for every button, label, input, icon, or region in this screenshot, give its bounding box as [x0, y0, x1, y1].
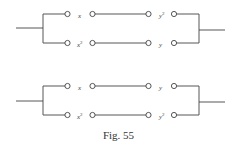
switch-label: y2	[159, 111, 165, 121]
switch-terminal	[171, 83, 176, 88]
figure-caption: Fig. 55	[0, 129, 237, 141]
switch-terminal	[171, 11, 176, 16]
switch-terminal	[146, 11, 151, 16]
switch-terminal	[65, 112, 70, 117]
switch-label: x	[78, 82, 81, 92]
switch-terminal	[146, 112, 151, 117]
switch-label: x2	[77, 39, 83, 49]
switch-terminal	[90, 83, 95, 88]
switch-label: y	[159, 82, 162, 92]
switch-label: y	[159, 39, 162, 49]
circuit-diagram	[0, 0, 237, 148]
switch-terminal	[65, 40, 70, 45]
switch-terminal	[146, 83, 151, 88]
switch-terminal	[90, 40, 95, 45]
switch-terminal	[65, 83, 70, 88]
upper-circuit	[16, 11, 225, 45]
switch-label: x2	[77, 111, 83, 121]
switch-terminal	[171, 40, 176, 45]
switch-terminal	[65, 11, 70, 16]
switch-terminal	[146, 40, 151, 45]
switch-terminal	[90, 11, 95, 16]
switch-label: x	[78, 10, 81, 20]
switch-terminal	[171, 112, 176, 117]
lower-circuit	[16, 83, 225, 117]
switch-terminal	[90, 112, 95, 117]
switch-label: y2	[159, 10, 165, 20]
